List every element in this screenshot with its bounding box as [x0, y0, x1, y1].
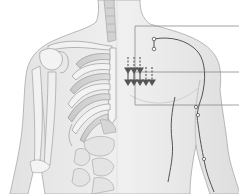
- acupoint-icon: [202, 157, 205, 160]
- acupoint-icon: [152, 47, 156, 51]
- acupoint-icon: [196, 113, 199, 116]
- acupoint-icon: [152, 37, 156, 41]
- torso-diagram: [0, 0, 239, 194]
- acupoint-icon: [194, 105, 197, 108]
- anatomy-illustration: [0, 0, 239, 194]
